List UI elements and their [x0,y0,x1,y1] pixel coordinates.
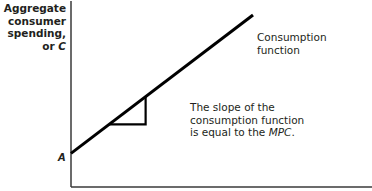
slope-annotation: The slope of the consumption function is… [190,101,304,139]
annotation-line: consumption function [190,114,304,127]
y-axis-label-line: Aggregate [0,2,66,15]
annotation-line: is equal to the MPC. [190,126,304,139]
annotation-line: The slope of the [190,101,304,114]
annotation-mpc: MPC [269,126,292,138]
annotation-text: is equal to the [190,126,265,138]
series-label: Consumption function [257,31,327,56]
y-axis-symbol: C [58,40,66,52]
annotation-period: . [291,126,294,138]
series-label-line: function [257,44,327,57]
y-axis-label-line: consumer [0,15,66,28]
series-label-line: Consumption [257,31,327,44]
y-axis-label-line: spending, or C [0,27,66,52]
y-axis-label: Aggregate consumer spending, or C [0,2,66,52]
intercept-label: A [58,152,66,163]
